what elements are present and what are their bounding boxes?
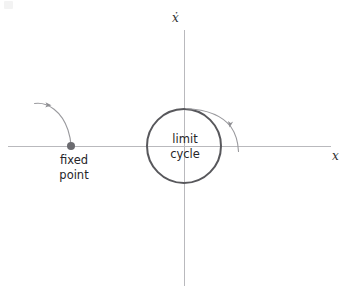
phase-portrait-figure: ẋ x limit cycle fixed point [0,0,348,296]
limit-cycle-label: limit cycle [150,132,220,161]
xdot-axis-label: ẋ [172,12,179,24]
fixed-point-label: fixed point [46,153,102,182]
x-axis-label: x [332,150,339,162]
trajectory-into-fixed-point [35,103,72,145]
fixed-point-dot [67,142,75,150]
